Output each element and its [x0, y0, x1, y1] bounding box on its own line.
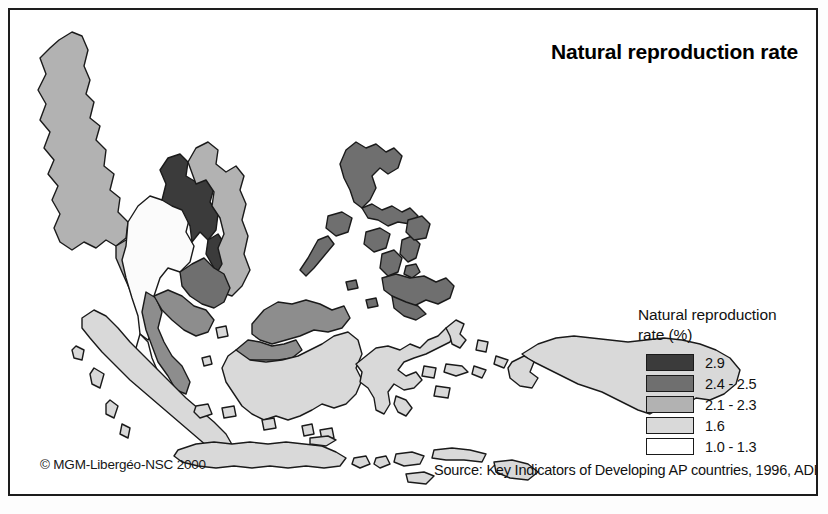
- island-small-sunda-1: [302, 424, 314, 436]
- island-small-maluku-3: [472, 366, 486, 378]
- legend-item: 1.0 - 1.3: [646, 437, 814, 457]
- region-panay: [364, 228, 390, 252]
- island-small-maluku-2: [494, 356, 508, 368]
- island-obi: [434, 386, 450, 398]
- map-frame: Natural reproduction rate Natural reprod…: [8, 8, 818, 496]
- legend-item: 1.6: [646, 416, 814, 436]
- island-bali: [352, 456, 370, 468]
- legend-swatch: [646, 438, 694, 455]
- region-basilan: [366, 298, 378, 308]
- page-title: Natural reproduction rate: [551, 40, 798, 64]
- legend-item: 2.9: [646, 353, 814, 373]
- island-natuna: [216, 326, 228, 338]
- legend-label: 1.6: [705, 418, 725, 434]
- island-seram: [444, 364, 468, 376]
- source-note: Source: Key Indicators of Developing AP …: [434, 462, 818, 478]
- copyright-credit: © MGM-Libergéo-NSC 2000: [40, 457, 206, 472]
- region-bohol: [404, 264, 420, 278]
- island-flores: [432, 448, 486, 462]
- legend-label: 1.0 - 1.3: [705, 439, 756, 455]
- island-small-maluku-1: [476, 340, 488, 352]
- island-belitung: [222, 406, 236, 418]
- legend-title-line1: Natural reproduction: [638, 305, 814, 325]
- island-pagai: [106, 400, 118, 418]
- region-luzon: [340, 142, 402, 208]
- island-madura: [310, 436, 336, 446]
- region-negros: [380, 250, 402, 276]
- region-palawan: [300, 236, 334, 276]
- legend-label: 2.9: [705, 355, 725, 371]
- legend-title-line2: rate (%): [638, 325, 814, 345]
- legend-swatch: [646, 417, 694, 434]
- region-myanmar: [38, 32, 128, 250]
- map-figure: Natural reproduction rate Natural reprod…: [0, 0, 828, 514]
- island-enggano: [120, 424, 130, 438]
- region-mindoro: [326, 212, 352, 236]
- island-siberut: [90, 368, 104, 388]
- region-sulawesi-southeast: [394, 396, 412, 416]
- legend-swatch: [646, 354, 694, 371]
- legend-title: Natural reproduction rate (%): [638, 305, 814, 346]
- legend-label: 2.4 - 2.5: [705, 376, 756, 392]
- legend: Natural reproduction rate (%) 2.9 2.4 - …: [638, 305, 814, 458]
- island-anambas: [202, 356, 212, 366]
- legend-swatch: [646, 375, 694, 392]
- legend-swatch: [646, 396, 694, 413]
- legend-label: 2.1 - 2.3: [705, 397, 756, 413]
- region-sulu: [346, 280, 358, 290]
- island-lombok: [374, 456, 390, 468]
- legend-rows: 2.9 2.4 - 2.5 2.1 - 2.3 1.6 1.0 - 1.3: [646, 353, 814, 457]
- island-sumba: [406, 472, 434, 484]
- island-small-sunda-3: [262, 418, 276, 430]
- legend-item: 2.1 - 2.3: [646, 395, 814, 415]
- island-sumbawa: [394, 452, 424, 466]
- legend-item: 2.4 - 2.5: [646, 374, 814, 394]
- island-nias: [72, 346, 84, 360]
- island-halmahera: [446, 320, 466, 348]
- island-buru: [422, 366, 436, 378]
- region-samar: [406, 216, 430, 240]
